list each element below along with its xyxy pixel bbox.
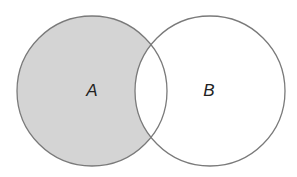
set-a-label: A <box>85 81 97 100</box>
venn-diagram: A B <box>0 0 297 177</box>
set-b-label: B <box>203 81 214 100</box>
